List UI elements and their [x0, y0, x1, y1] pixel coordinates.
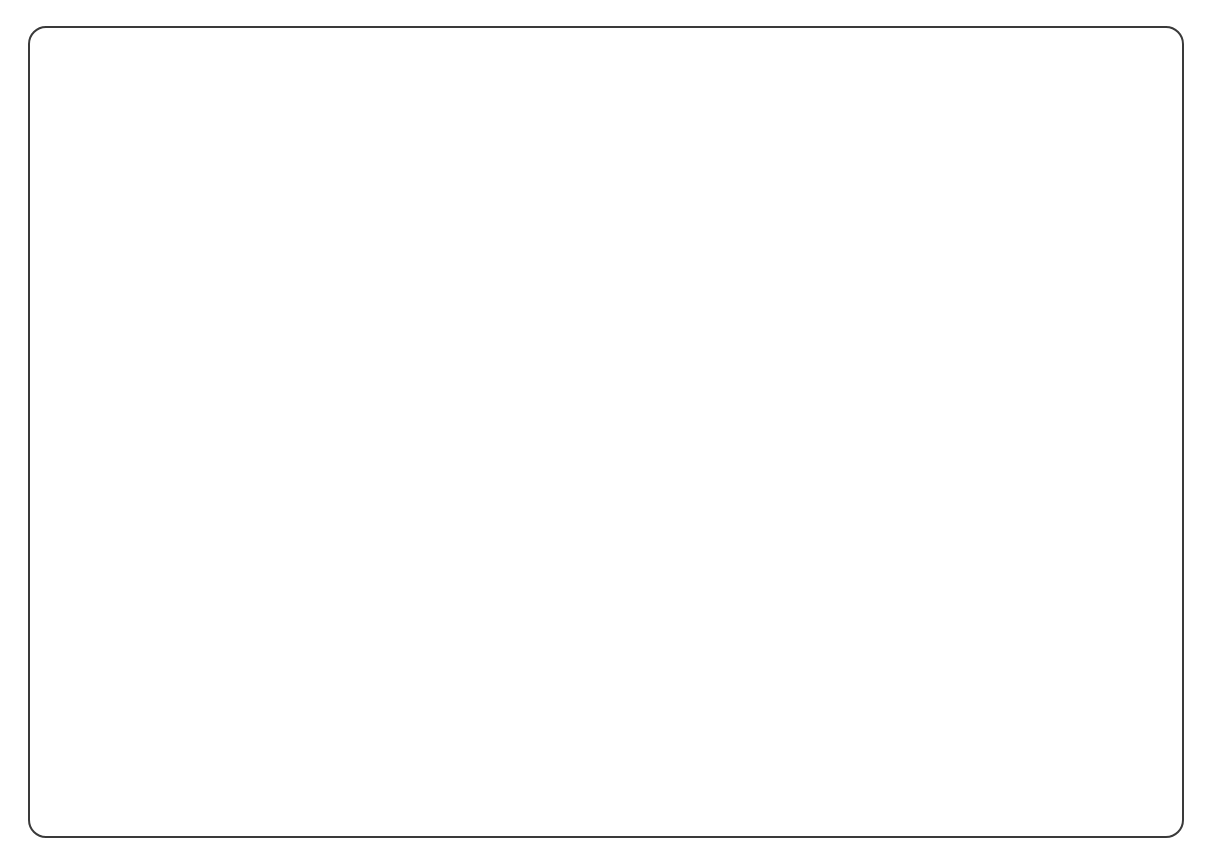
map-frame-border — [28, 26, 1184, 838]
